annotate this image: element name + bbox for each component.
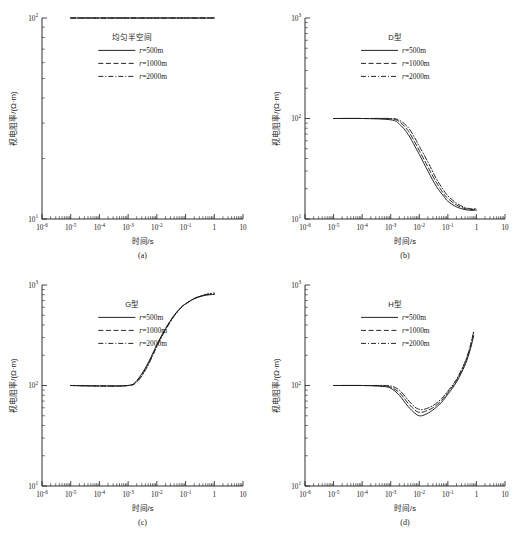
y-axis-ticks: 101102: [28, 12, 47, 223]
x-axis-title: 时间/s: [132, 503, 154, 513]
y-axis-ticks: 101102103: [291, 279, 310, 490]
y-tick-label: 102: [291, 380, 301, 390]
panel-caption: (a): [138, 251, 147, 260]
y-tick-label: 101: [291, 480, 301, 490]
legend-label: r=2000m: [139, 72, 167, 81]
y-axis-ticks: 101102103: [291, 12, 310, 223]
legend-label: r=500m: [402, 46, 426, 55]
legend-label: r=1000m: [402, 326, 430, 335]
x-tick-label: 1: [212, 491, 216, 499]
x-tick-label: 10-3: [122, 489, 134, 499]
x-tick-label: 10: [501, 224, 509, 232]
x-tick-label: 10-1: [442, 489, 454, 499]
x-axis-title: 时间/s: [394, 503, 416, 513]
y-tick-label: 101: [291, 213, 301, 223]
legend-label: r=500m: [402, 313, 426, 322]
y-tick-label: 102: [291, 113, 301, 123]
x-tick-label: 10: [239, 224, 247, 232]
x-tick-label: 1: [475, 491, 479, 499]
legend-title: H型: [388, 300, 401, 309]
x-tick-label: 10-4: [356, 222, 368, 232]
x-tick-label: 10-6: [299, 222, 311, 232]
x-tick-label: 10-1: [180, 489, 192, 499]
y-axis-ticks: 101102103: [28, 279, 47, 490]
y-axis-title: 视电阻率/(Ω·m): [271, 358, 281, 413]
legend: 均匀半空间r=500mr=1000mr=2000m: [98, 32, 167, 81]
x-tick-label: 10-5: [65, 222, 77, 232]
x-tick-label: 10-1: [442, 222, 454, 232]
legend-label: r=1000m: [139, 326, 167, 335]
figure-container: 10-610-510-410-310-210-1110101102均匀半空间r=…: [0, 0, 525, 534]
legend: H型r=500mr=1000mr=2000m: [361, 300, 430, 348]
x-tick-label: 10-5: [328, 489, 340, 499]
x-axis-ticks: 10-610-510-410-310-210-1110: [299, 214, 509, 232]
legend: G型r=500mr=1000mr=2000m: [98, 300, 167, 348]
panel-caption: (c): [138, 518, 147, 527]
y-tick-label: 103: [291, 279, 301, 289]
y-tick-label: 103: [28, 279, 38, 289]
y-tick-label: 103: [291, 12, 301, 22]
legend-label: r=2000m: [402, 339, 430, 348]
data-curves: [334, 118, 477, 210]
legend-title: G型: [125, 300, 139, 309]
legend-label: r=500m: [139, 313, 163, 322]
y-axis-title: 视电阻率/(Ω·m): [8, 358, 18, 413]
y-axis-title: 视电阻率/(Ω·m): [271, 91, 281, 146]
legend-label: r=2000m: [139, 339, 167, 348]
chart-panel-d: 10-610-510-410-310-210-1110101102103H型r=…: [263, 267, 525, 534]
x-tick-label: 10-6: [36, 222, 48, 232]
y-tick-label: 101: [28, 213, 38, 223]
x-tick-label: 10-2: [151, 222, 163, 232]
legend-label: r=1000m: [139, 59, 167, 68]
panel-caption: (d): [400, 518, 410, 527]
x-tick-label: 10-4: [94, 489, 106, 499]
x-tick-label: 10-3: [385, 222, 397, 232]
x-tick-label: 10-6: [36, 489, 48, 499]
legend-title: D型: [388, 33, 401, 42]
legend-label: r=500m: [139, 46, 163, 55]
x-tick-label: 10-5: [65, 489, 77, 499]
legend-label: r=2000m: [402, 72, 430, 81]
legend: D型r=500mr=1000mr=2000m: [361, 33, 430, 81]
x-tick-label: 10-6: [299, 489, 311, 499]
x-tick-label: 10-2: [414, 222, 426, 232]
legend-title: 均匀半空间: [112, 32, 152, 42]
x-tick-label: 10: [501, 491, 509, 499]
curve-r500m: [334, 118, 477, 210]
x-tick-label: 10-5: [328, 222, 340, 232]
x-axis-ticks: 10-610-510-410-310-210-1110: [36, 214, 247, 232]
x-tick-label: 10-2: [414, 489, 426, 499]
y-tick-label: 102: [28, 12, 38, 22]
y-tick-label: 101: [28, 480, 38, 490]
x-axis-title: 时间/s: [394, 236, 416, 246]
x-tick-label: 10-4: [94, 222, 106, 232]
curve-r2000m: [334, 118, 477, 209]
x-tick-label: 10-3: [385, 489, 397, 499]
legend-label: r=1000m: [402, 59, 430, 68]
x-tick-label: 10-2: [151, 489, 163, 499]
x-tick-label: 1: [475, 224, 479, 232]
x-tick-label: 1: [212, 224, 216, 232]
x-tick-label: 10: [239, 491, 247, 499]
chart-panel-a: 10-610-510-410-310-210-1110101102均匀半空间r=…: [0, 0, 263, 267]
y-axis-title: 视电阻率/(Ω·m): [8, 91, 18, 146]
x-tick-label: 10-1: [180, 222, 192, 232]
x-axis-ticks: 10-610-510-410-310-210-1110: [36, 481, 247, 499]
chart-panel-c: 10-610-510-410-310-210-1110101102103G型r=…: [0, 267, 263, 534]
chart-panel-b: 10-610-510-410-310-210-1110101102103D型r=…: [263, 0, 525, 267]
panel-caption: (b): [400, 251, 410, 260]
x-tick-label: 10-3: [122, 222, 134, 232]
x-tick-label: 10-4: [356, 489, 368, 499]
curve-r500m: [334, 336, 474, 416]
curve-r1000m: [334, 118, 477, 209]
y-tick-label: 102: [28, 380, 38, 390]
x-axis-ticks: 10-610-510-410-310-210-1110: [299, 481, 509, 499]
x-axis-title: 时间/s: [132, 236, 154, 246]
